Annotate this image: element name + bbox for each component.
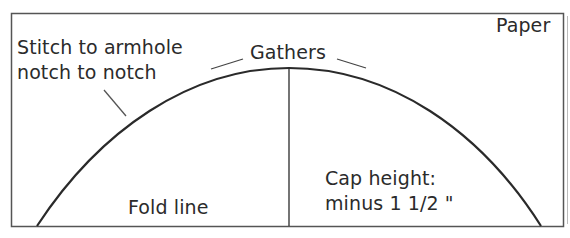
- sleeve-cap-diagram: Paper Stitch to armhole notch to notch G…: [0, 0, 570, 238]
- stitch-to-armhole-label: Stitch to armhole notch to notch: [17, 35, 183, 85]
- fold-line-label: Fold line: [128, 195, 208, 220]
- gathers-label: Gathers: [250, 40, 326, 65]
- armhole-leader-line: [104, 90, 126, 116]
- cap-height-line1: Cap height:: [325, 166, 454, 191]
- cap-height-line2: minus 1 1/2 ": [325, 191, 454, 216]
- paper-label: Paper: [496, 13, 550, 38]
- gathers-tick-right: [337, 59, 366, 68]
- stitch-label-line1: Stitch to armhole: [17, 35, 183, 60]
- stitch-label-line2: notch to notch: [17, 60, 183, 85]
- cap-height-label: Cap height: minus 1 1/2 ": [325, 166, 454, 216]
- gathers-tick-left: [211, 59, 243, 69]
